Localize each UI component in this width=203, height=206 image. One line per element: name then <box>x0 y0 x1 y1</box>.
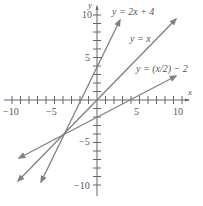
tick-label-y-neg5: −5 <box>79 137 90 147</box>
legend-eq-2x-plus-4: y = 2x + 4 <box>112 7 154 17</box>
tick-label-y-10: 10 <box>82 10 92 20</box>
tick-label-x-neg5: −5 <box>46 107 57 117</box>
tick-label-x-neg10: −10 <box>3 107 19 117</box>
x-axis-label: x <box>188 88 192 97</box>
legend-eq-y-x: y = x <box>130 34 151 44</box>
tick-label-x-5: 5 <box>134 107 139 117</box>
tick-label-y-neg10: −10 <box>74 181 90 191</box>
tick-label-x-10: 10 <box>173 107 183 117</box>
tick-label-y-5: 5 <box>85 53 90 63</box>
legend-eq-half-x-minus-2: y = (x/2) − 2 <box>136 64 188 74</box>
line-y-2x-plus-4 <box>41 20 120 182</box>
graph <box>0 0 203 206</box>
